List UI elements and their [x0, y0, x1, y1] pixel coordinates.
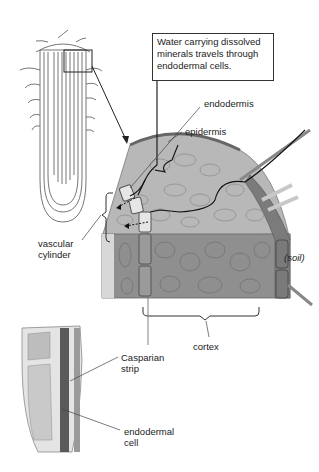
label-epidermis: epidermis [185, 126, 226, 137]
callout-line-2: minerals travels through [157, 48, 269, 60]
endodermal-cell-illustration [22, 326, 82, 452]
label-cortex: cortex [193, 341, 219, 352]
root-section-block [102, 130, 312, 305]
label-soil: (soil) [284, 252, 305, 263]
label-endodermis: endodermis [204, 98, 254, 109]
root-tip-illustration [20, 30, 102, 222]
callout-line-1: Water carrying dissolved [157, 36, 269, 48]
zoom-arrow [92, 66, 127, 142]
label-endodermal-cell: endodermal cell [124, 426, 174, 448]
water-transport-callout: Water carrying dissolved minerals travel… [152, 33, 274, 81]
label-vascular-cylinder: vascular cylinder [38, 238, 73, 260]
callout-line-3: endodermal cells. [157, 60, 269, 72]
label-casparian-strip: Casparian strip [121, 352, 164, 374]
